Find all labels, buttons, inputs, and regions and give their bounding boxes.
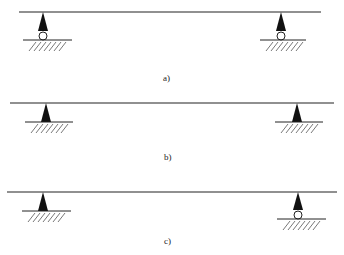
roller-support xyxy=(260,12,306,51)
pin-support xyxy=(275,103,323,133)
roller-support xyxy=(23,12,72,51)
support-triangle-icon xyxy=(292,103,302,122)
support-triangle-icon xyxy=(293,192,303,210)
roller-support xyxy=(277,192,326,230)
panel-label: c) xyxy=(164,236,171,246)
panel-label: b) xyxy=(164,152,172,162)
panel-label: a) xyxy=(163,73,170,83)
support-triangle-icon xyxy=(38,12,48,31)
panel-c xyxy=(7,192,337,230)
panel-b xyxy=(10,103,334,133)
roller-circle-icon xyxy=(277,32,285,40)
pin-support xyxy=(25,103,73,133)
pin-support xyxy=(22,192,71,222)
support-triangle-icon xyxy=(276,12,286,31)
beam-support-diagram xyxy=(0,0,344,255)
support-triangle-icon xyxy=(38,192,48,211)
roller-circle-icon xyxy=(294,211,302,219)
panel-a xyxy=(19,12,321,51)
roller-circle-icon xyxy=(39,32,47,40)
support-triangle-icon xyxy=(41,103,51,122)
